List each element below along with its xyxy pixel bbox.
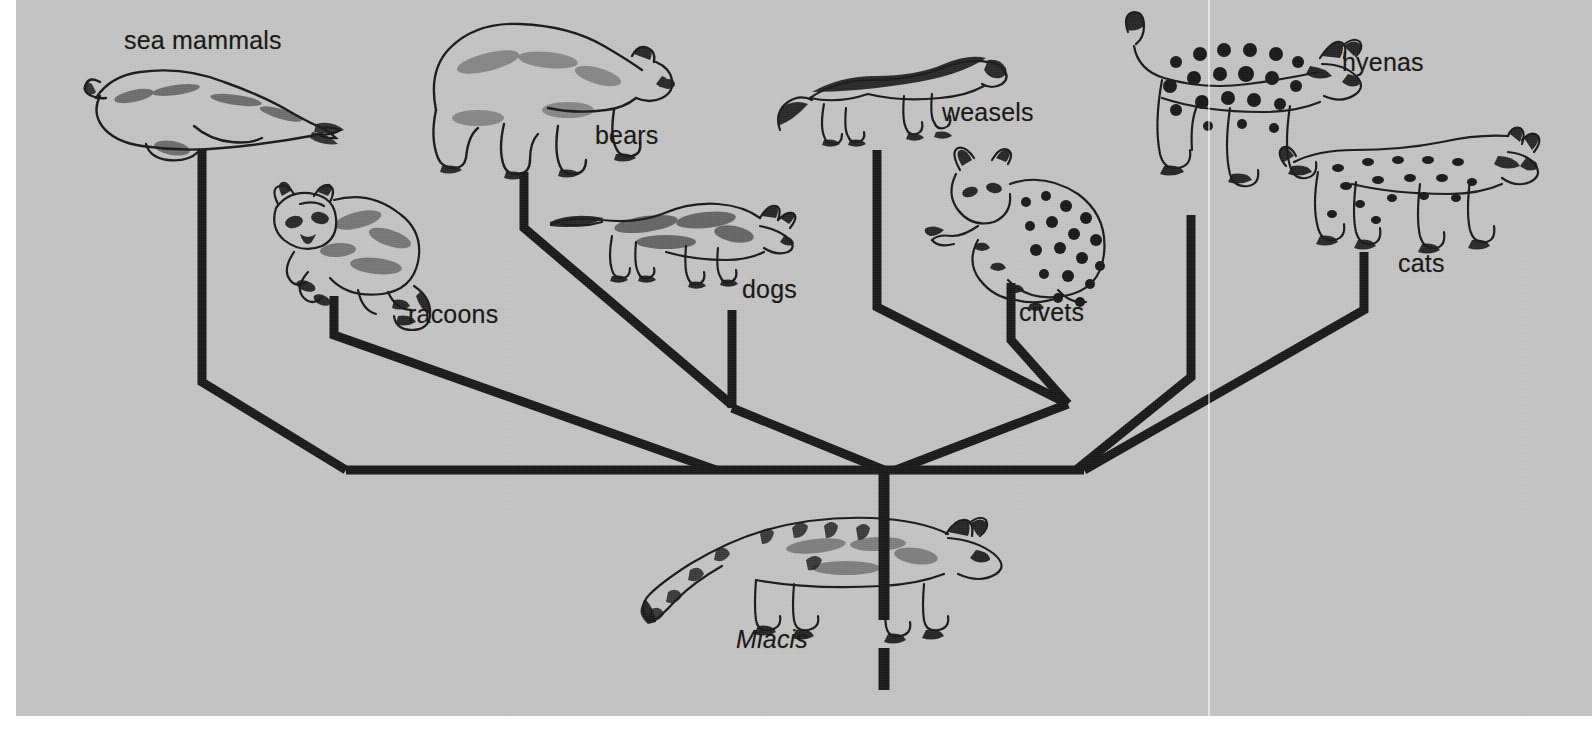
branch-caniform-to-root	[732, 408, 884, 470]
label-miacis: Miacis	[736, 625, 808, 654]
label-weasels: weasels	[942, 98, 1034, 127]
bear-illustration	[418, 14, 678, 184]
cladogram-plate: sea mammals racoons bears dogs weasels c…	[16, 0, 1592, 716]
seal-illustration	[76, 52, 346, 162]
branch-feliform-inner-to-root	[896, 404, 1068, 470]
label-cats: cats	[1398, 249, 1445, 278]
label-racoons: racoons	[408, 300, 498, 329]
figure-page: sea mammals racoons bears dogs weasels c…	[0, 0, 1592, 730]
miacis-illustration	[616, 500, 1036, 650]
label-dogs: dogs	[742, 275, 797, 304]
label-bears: bears	[595, 121, 659, 150]
label-sea-mammals: sea mammals	[124, 26, 282, 55]
lynx-illustration	[1272, 128, 1562, 268]
label-hyenas: hyenas	[1342, 48, 1424, 77]
label-civets: civets	[1019, 298, 1084, 327]
